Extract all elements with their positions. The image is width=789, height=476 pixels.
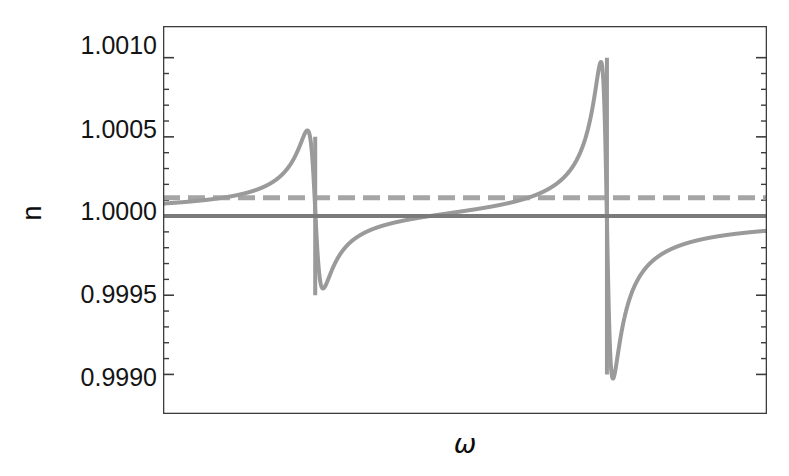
y-axis-label: n (15, 193, 49, 233)
y-tick-label: 1.0005 (47, 117, 157, 142)
chart-figure: n 1.0010 1.0005 1.0000 0.9995 0.9990 ω (0, 0, 789, 476)
plot-area (163, 26, 767, 414)
y-tick-label: 0.9990 (47, 365, 157, 390)
y-tick-label: 0.9995 (47, 282, 157, 307)
x-axis-label: ω (0, 428, 789, 459)
data-curves (163, 58, 767, 379)
y-tick-label: 1.0000 (47, 199, 157, 224)
y-tick-label-group: 1.0010 1.0005 1.0000 0.9995 0.9990 (45, 0, 157, 476)
plot-frame (164, 27, 767, 414)
plot-svg (163, 26, 767, 414)
y-tick-label: 1.0010 (47, 33, 157, 58)
